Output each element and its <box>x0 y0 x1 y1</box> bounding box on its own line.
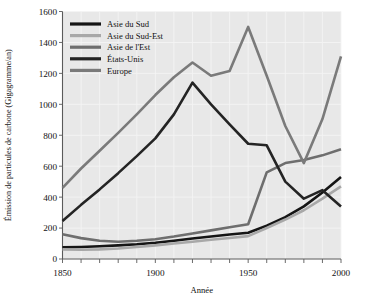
x-tick-label: 1950 <box>239 268 258 278</box>
y-tick-label: 1000 <box>39 100 58 110</box>
legend-label: Europe <box>107 66 132 76</box>
y-tick-label: 1600 <box>39 7 58 17</box>
x-tick-label: 2000 <box>332 268 351 278</box>
y-axis-title: Émission de particules de carbone (Gigag… <box>3 49 13 221</box>
legend-label: Asie de l'Est <box>107 42 151 52</box>
legend-label: Asie du Sud-Est <box>107 31 163 41</box>
x-axis-ticks: 1850190019502000 <box>53 259 350 278</box>
x-tick-label: 1900 <box>146 268 165 278</box>
y-tick-label: 800 <box>43 131 57 141</box>
line-chart-canvas: 02004006008001000120014001600 1850190019… <box>0 0 370 301</box>
x-axis-title: Année <box>191 285 214 295</box>
y-tick-label: 1400 <box>39 38 58 48</box>
y-tick-label: 0 <box>52 254 57 264</box>
legend-label: Asie du Sud <box>107 19 150 29</box>
y-tick-label: 1200 <box>39 69 58 79</box>
chart-figure: 02004006008001000120014001600 1850190019… <box>0 0 370 301</box>
y-tick-label: 400 <box>43 193 57 203</box>
y-axis-ticks: 02004006008001000120014001600 <box>39 7 63 265</box>
y-tick-label: 200 <box>43 223 57 233</box>
legend-label: États-Unis <box>107 54 144 64</box>
x-tick-label: 1850 <box>53 268 72 278</box>
y-tick-label: 600 <box>43 162 57 172</box>
